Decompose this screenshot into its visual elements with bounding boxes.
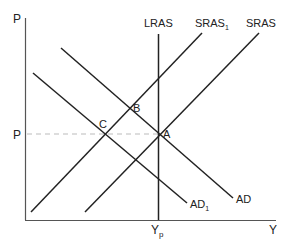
ad1-label: AD1 xyxy=(190,198,209,212)
lras-label: LRAS xyxy=(144,17,173,29)
ad-curve xyxy=(61,48,233,198)
point-b-label: B xyxy=(133,102,140,114)
sras-curve xyxy=(85,33,259,212)
ad-label: AD xyxy=(236,193,251,205)
x-axis-label: Y xyxy=(269,223,277,237)
potential-output-label: Yp xyxy=(151,223,164,239)
point-c-label: C xyxy=(99,118,107,130)
price-tick-label: P xyxy=(13,128,21,142)
point-a-label: A xyxy=(163,128,171,140)
sras1-label: SRAS1 xyxy=(195,17,229,31)
sras1-curve xyxy=(31,33,202,212)
sras-label: SRAS xyxy=(246,17,276,29)
ad-as-diagram: P P Y Yp LRAS SRAS1 SRAS AD AD1 A B C xyxy=(0,0,291,248)
y-axis-label: P xyxy=(13,12,21,26)
